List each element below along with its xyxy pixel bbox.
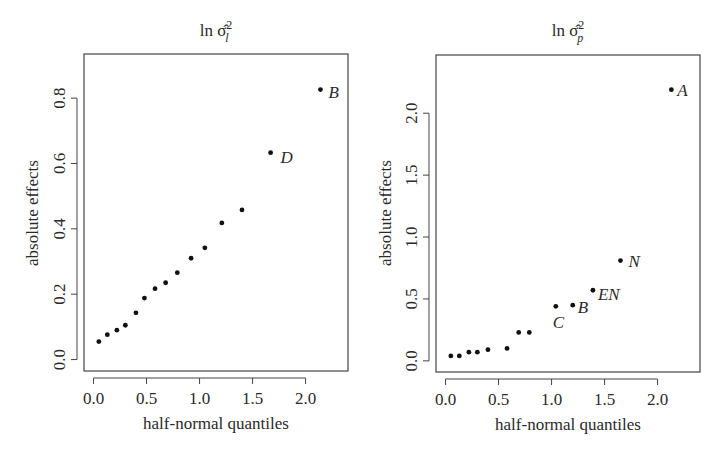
data-point (142, 296, 147, 301)
x-tick-label: 0.5 (136, 389, 157, 408)
data-point (516, 330, 521, 335)
data-point (570, 303, 575, 308)
point-label: EN (597, 285, 621, 304)
point-label: C (553, 313, 565, 332)
y-tick-label: 0.2 (50, 284, 69, 305)
x-tick-label: 0.0 (83, 389, 104, 408)
point-label: B (328, 83, 339, 102)
x-tick-label: 1.5 (242, 389, 263, 408)
data-point (105, 332, 110, 337)
point-label: A (676, 81, 688, 100)
data-point (163, 280, 168, 285)
data-point (240, 207, 245, 212)
x-tick-label: 1.0 (541, 390, 562, 409)
data-points-right: CBENNA (448, 81, 688, 359)
data-point (505, 346, 510, 351)
data-point (114, 328, 119, 333)
data-point (268, 150, 273, 155)
y-axis-left: 0.00.20.40.60.8 (50, 87, 77, 370)
data-point (202, 245, 207, 250)
y-tick-label: 0.6 (50, 153, 69, 174)
plot-title-left: ln σ̂2l (200, 18, 233, 45)
y-tick-label: 1.0 (402, 226, 421, 247)
figure: ln σ̂2l 0.00.51.01.52.0 0.00.20.40.60.8 … (0, 0, 722, 460)
y-tick-label: 0.5 (402, 288, 421, 309)
x-axis-label-right: half-normal quantiles (495, 415, 641, 434)
plot-panel-left: ln σ̂2l 0.00.51.01.52.0 0.00.20.40.60.8 … (23, 18, 348, 433)
point-label: D (280, 148, 294, 167)
data-point (189, 256, 194, 261)
y-axis-right: 0.00.51.01.52.0 (402, 103, 429, 372)
x-tick-label: 1.5 (594, 390, 615, 409)
x-tick-label: 2.0 (295, 389, 316, 408)
y-axis-label-left: absolute effects (23, 160, 42, 266)
x-axis-label-left: half-normal quantiles (143, 414, 289, 433)
data-point (134, 310, 139, 315)
y-tick-label: 0.8 (50, 87, 69, 108)
y-axis-label-right: absolute effects (376, 160, 395, 266)
y-tick-label: 0.4 (50, 218, 69, 240)
data-point (123, 323, 128, 328)
data-point (153, 286, 158, 291)
data-point (591, 288, 596, 293)
data-point (475, 350, 480, 355)
data-point (175, 270, 180, 275)
data-point (96, 339, 101, 344)
y-tick-label: 2.0 (402, 103, 421, 124)
data-point (448, 354, 453, 359)
y-tick-label: 0.0 (50, 349, 69, 370)
x-axis-left: 0.00.51.01.52.0 (83, 378, 316, 408)
data-point (457, 354, 462, 359)
data-point (669, 87, 674, 92)
data-point (219, 221, 224, 226)
point-label: N (627, 252, 641, 271)
x-tick-label: 1.0 (189, 389, 210, 408)
y-tick-label: 1.5 (402, 164, 421, 185)
plot-title-right: ln σ̂2p (552, 18, 585, 45)
x-tick-label: 2.0 (647, 390, 668, 409)
plot-frame-left (84, 54, 348, 371)
x-tick-label: 0.0 (435, 390, 456, 409)
data-point (486, 347, 491, 352)
data-point (618, 258, 623, 263)
x-tick-label: 0.5 (488, 390, 509, 409)
y-tick-label: 0.0 (402, 350, 421, 371)
data-point (466, 350, 471, 355)
data-point (553, 304, 558, 309)
x-axis-right: 0.00.51.01.52.0 (435, 379, 668, 409)
plot-frame-right (436, 55, 700, 372)
data-point (527, 330, 532, 335)
point-label: B (578, 298, 589, 317)
data-points-left: DB (96, 83, 339, 344)
data-point (318, 87, 323, 92)
plot-panel-right: ln σ̂2p 0.00.51.01.52.0 0.00.51.01.52.0 … (376, 18, 700, 434)
